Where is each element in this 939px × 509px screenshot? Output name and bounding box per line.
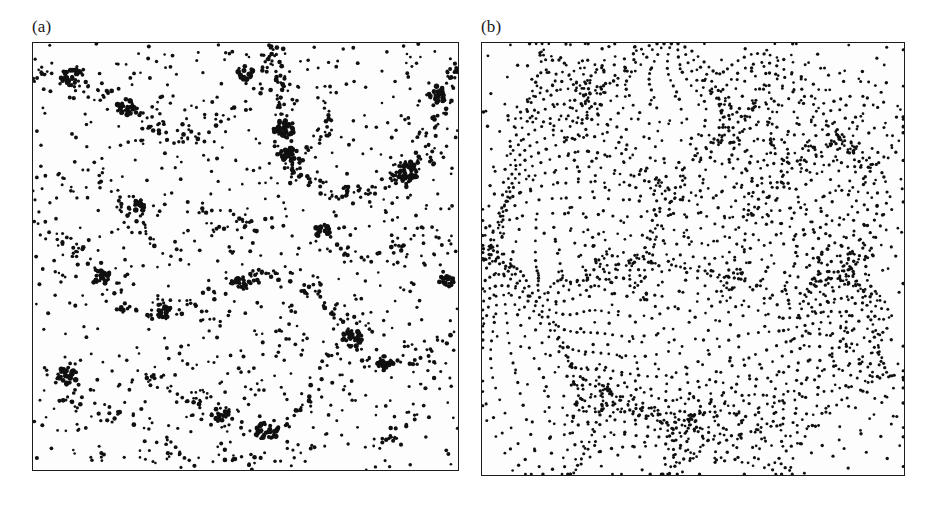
panel-a-frame: [32, 42, 459, 471]
panel-b-label: (b): [481, 18, 905, 42]
panel-b-lattice-plot: [482, 43, 904, 475]
figure-root: (a) (b): [0, 0, 939, 509]
panel-b: (b): [481, 18, 905, 476]
panel-b-frame: [481, 42, 905, 476]
panel-a-scatter-plot: [33, 43, 458, 470]
panel-a-label: (a): [32, 18, 459, 42]
panel-a: (a): [32, 18, 459, 471]
